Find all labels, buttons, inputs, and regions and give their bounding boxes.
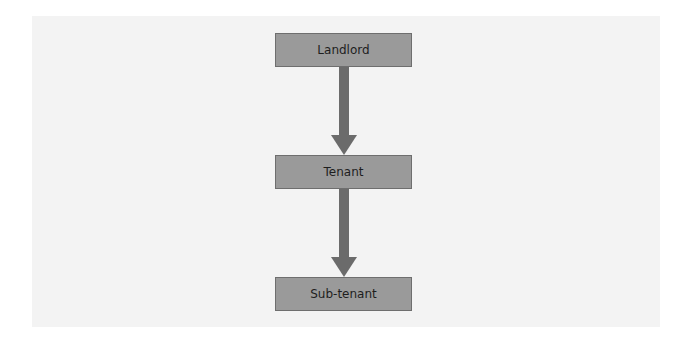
diagram-canvas: Landlord Tenant Sub-tenant — [0, 0, 689, 342]
node-tenant-label: Tenant — [324, 165, 364, 179]
node-sub-tenant: Sub-tenant — [275, 277, 412, 311]
arrow-tenant-to-sub-tenant — [331, 189, 357, 277]
arrow-down-icon — [331, 67, 357, 155]
node-sub-tenant-label: Sub-tenant — [310, 287, 377, 301]
arrow-down-icon — [331, 189, 357, 277]
node-tenant: Tenant — [275, 155, 412, 189]
arrow-landlord-to-tenant — [331, 67, 357, 155]
node-landlord-label: Landlord — [317, 43, 369, 57]
node-landlord: Landlord — [275, 33, 412, 67]
